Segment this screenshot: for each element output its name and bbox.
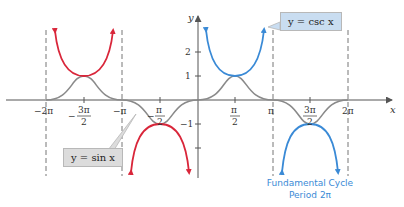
x-tick-negpi2-den: 2 [157,117,163,127]
y-tick-labels: 2 1 −1 [180,47,193,129]
y-axis-label: y [187,12,194,23]
x-tick-3pi2-den: 2 [307,117,313,127]
note-line-1: Fundamental Cycle [255,177,365,189]
x-tick-negpi2-num: π [156,105,162,115]
csc-branch-red-upper [55,31,113,76]
csc-branch-red-lower [131,124,189,172]
x-tick-2pi: 2π [342,106,354,116]
csc-callout: y = csc x [280,12,342,31]
csc-branch-blue-lower [282,124,338,172]
x-tick-neg2pi: −2π [34,106,53,116]
x-tick-negpi2-sign: − [147,111,155,121]
x-tick-3pi2-num: 3π [304,105,316,115]
x-tick-pi2-den: 2 [232,117,238,127]
fundamental-cycle-note: Fundamental Cycle Period 2π [255,177,365,201]
x-tick-neg3pi2-den: 2 [81,117,87,127]
csc-graph-figure: y x −2π − 3π 2 −π − π 2 π 2 π 3π 2 2π 2 [0,0,404,207]
y-tick-2: 2 [185,47,191,57]
x-tick-neg3pi2-sign: − [68,111,76,121]
x-tick-neg3pi2-num: 3π [78,105,90,115]
chart-canvas: y x −2π − 3π 2 −π − π 2 π 2 π 3π 2 2π 2 [0,0,404,207]
x-tick-pi2-num: π [231,105,237,115]
csc-callout-leader [268,22,280,30]
x-axis-label: x [390,104,396,115]
note-line-2: Period 2π [255,189,365,201]
sin-callout: y = sin x [63,148,123,167]
y-tick-neg1: −1 [180,119,193,129]
y-tick-1: 1 [185,71,191,81]
x-tick-pi: π [268,106,274,116]
x-tick-negpi: −π [113,106,127,116]
csc-branch-blue-upper [206,30,264,76]
